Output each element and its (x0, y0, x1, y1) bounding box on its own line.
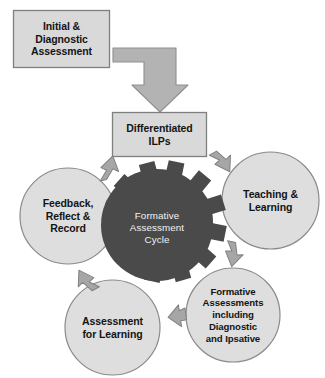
box-initial-assessment (14, 11, 110, 68)
gear-formative-assessment-cycle (101, 160, 227, 283)
circle-teaching-learning (222, 152, 319, 249)
elbow-arrow-initial-to-ilps (113, 48, 188, 112)
diagram-canvas (0, 0, 325, 378)
box-differentiated-ilps (113, 113, 207, 157)
chevron-arrow-teaching-to-formative (219, 237, 245, 266)
circle-assessment-for-learning (65, 280, 160, 375)
chevron-arrow-ilps-to-teaching (206, 149, 234, 172)
formative-assessment-cycle-diagram: Initial & Diagnostic Assessment Differen… (0, 0, 325, 378)
circle-formative-assessments (186, 268, 280, 362)
chevron-arrow-formative-to-assessment (167, 304, 188, 328)
circle-feedback-reflect-record (20, 168, 116, 264)
